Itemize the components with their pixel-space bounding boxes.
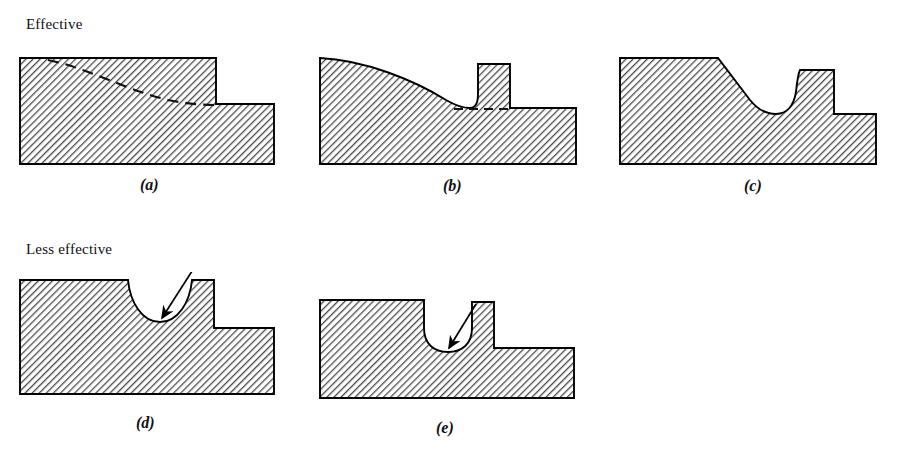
figure-root: Effective Less effective (a) (b) (c) (d)… <box>0 0 898 453</box>
panel-b-body <box>320 58 576 164</box>
panel-a-body <box>20 58 274 164</box>
panel-c-drawing <box>618 52 880 170</box>
panel-d-drawing <box>18 272 278 400</box>
caption-panel-d: (d) <box>136 414 155 432</box>
row-label-effective: Effective <box>26 16 83 33</box>
panel-a-drawing <box>18 52 278 170</box>
panel-d-body <box>20 280 274 394</box>
panel-e-drawing <box>318 292 578 404</box>
panel-c-body <box>620 58 876 164</box>
row-label-less-effective: Less effective <box>26 241 112 258</box>
panel-e-body <box>320 300 574 398</box>
caption-panel-a: (a) <box>140 176 159 194</box>
caption-panel-e: (e) <box>436 419 454 437</box>
panel-b-drawing <box>318 52 580 170</box>
caption-panel-c: (c) <box>744 177 762 195</box>
caption-panel-b: (b) <box>443 177 462 195</box>
